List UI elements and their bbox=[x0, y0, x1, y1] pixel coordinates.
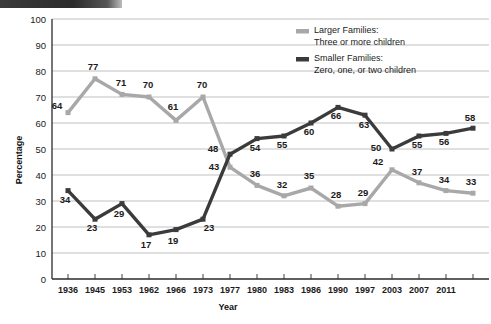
smaller-families-marker[interactable] bbox=[120, 201, 125, 206]
legend-label-larger-line2: Three or more children bbox=[314, 37, 405, 47]
y-tick-label: 30 bbox=[35, 196, 46, 207]
line-chart: 0102030405060708090100193619451953196219… bbox=[0, 0, 491, 324]
smaller-families-value-label: 19 bbox=[168, 235, 179, 246]
larger-families-marker[interactable] bbox=[174, 118, 179, 123]
smaller-families-marker[interactable] bbox=[66, 188, 71, 193]
x-tick-label: 2011 bbox=[436, 285, 456, 295]
y-tick-label: 90 bbox=[35, 40, 46, 51]
legend-swatch-smaller bbox=[296, 57, 309, 62]
smaller-families-marker[interactable] bbox=[444, 131, 449, 136]
smaller-families-marker[interactable] bbox=[228, 152, 233, 157]
smaller-families-value-label: 17 bbox=[141, 239, 152, 250]
smaller-families-marker[interactable] bbox=[390, 147, 395, 152]
smaller-families-value-label: 29 bbox=[114, 208, 125, 219]
y-tick-label: 20 bbox=[35, 222, 46, 233]
x-tick-label: 1980 bbox=[247, 285, 267, 295]
x-tick-label: 2003 bbox=[382, 285, 402, 295]
larger-families-value-label: 36 bbox=[250, 168, 261, 179]
y-tick-label: 80 bbox=[35, 66, 46, 77]
y-tick-label: 60 bbox=[35, 118, 46, 129]
larger-families-marker[interactable] bbox=[417, 180, 422, 185]
larger-families-value-label: 43 bbox=[209, 161, 220, 172]
smaller-families-value-label: 50 bbox=[371, 142, 382, 153]
larger-families-marker[interactable] bbox=[147, 95, 152, 100]
x-tick-label: 2007 bbox=[409, 285, 429, 295]
smaller-families-marker[interactable] bbox=[471, 126, 476, 131]
larger-families-value-label: 64 bbox=[52, 100, 63, 111]
smaller-families-marker[interactable] bbox=[201, 217, 206, 222]
y-tick-label: 50 bbox=[35, 144, 46, 155]
legend-label-smaller-line2: Zero, one, or two children bbox=[314, 65, 416, 75]
x-tick-label: 1962 bbox=[139, 285, 159, 295]
smaller-families-value-label: 55 bbox=[277, 139, 288, 150]
larger-families-marker[interactable] bbox=[93, 76, 98, 81]
larger-families-value-label: 35 bbox=[304, 170, 315, 181]
larger-families-value-label: 70 bbox=[197, 79, 208, 90]
smaller-families-value-label: 63 bbox=[359, 119, 370, 130]
legend-swatch-larger bbox=[296, 29, 309, 34]
y-tick-label: 70 bbox=[35, 92, 46, 103]
x-tick-label: 1945 bbox=[85, 285, 105, 295]
smaller-families-value-label: 23 bbox=[87, 222, 98, 233]
smaller-families-marker[interactable] bbox=[309, 121, 314, 126]
larger-families-marker[interactable] bbox=[120, 92, 125, 97]
y-tick-label: 10 bbox=[35, 248, 46, 259]
larger-families-marker[interactable] bbox=[471, 191, 476, 196]
larger-families-value-label: 33 bbox=[466, 176, 477, 187]
smaller-families-value-label: 48 bbox=[208, 143, 219, 154]
x-axis-title: Year bbox=[218, 302, 238, 312]
x-tick-label: 1966 bbox=[166, 285, 186, 295]
x-tick-label: 1977 bbox=[220, 285, 240, 295]
larger-families-marker[interactable] bbox=[363, 201, 368, 206]
smaller-families-marker[interactable] bbox=[174, 227, 179, 232]
smaller-families-value-label: 54 bbox=[250, 142, 261, 153]
x-tick-label: 1936 bbox=[58, 285, 78, 295]
x-tick-label: 1986 bbox=[301, 285, 321, 295]
smaller-families-marker[interactable] bbox=[363, 113, 368, 118]
y-tick-label: 40 bbox=[35, 170, 46, 181]
larger-families-value-label: 32 bbox=[277, 179, 288, 190]
x-tick-label: 1953 bbox=[112, 285, 132, 295]
x-tick-label: 1997 bbox=[355, 285, 375, 295]
larger-families-marker[interactable] bbox=[255, 183, 260, 188]
y-tick-label: 0 bbox=[41, 274, 46, 285]
larger-families-value-label: 61 bbox=[168, 101, 179, 112]
larger-families-value-label: 70 bbox=[143, 79, 154, 90]
larger-families-marker[interactable] bbox=[444, 188, 449, 193]
y-axis-title: Percentage bbox=[14, 136, 24, 185]
larger-families-value-label: 37 bbox=[412, 166, 423, 177]
smaller-families-marker[interactable] bbox=[336, 105, 341, 110]
legend-label-larger-line1: Larger Families: bbox=[314, 25, 379, 35]
larger-families-value-label: 77 bbox=[88, 61, 99, 72]
y-tick-label: 100 bbox=[30, 14, 46, 25]
larger-families-marker[interactable] bbox=[309, 186, 314, 191]
smaller-families-value-label: 56 bbox=[439, 136, 450, 147]
smaller-families-value-label: 60 bbox=[304, 126, 315, 137]
smaller-families-marker[interactable] bbox=[147, 232, 152, 237]
smaller-families-value-label: 66 bbox=[331, 110, 342, 121]
larger-families-value-label: 71 bbox=[116, 77, 127, 88]
chart-container: 0102030405060708090100193619451953196219… bbox=[0, 0, 491, 324]
smaller-families-marker[interactable] bbox=[282, 134, 287, 139]
larger-families-marker[interactable] bbox=[390, 167, 395, 172]
larger-families-value-label: 42 bbox=[373, 156, 384, 167]
x-tick-label: 1983 bbox=[274, 285, 294, 295]
x-tick-label: 1990 bbox=[328, 285, 348, 295]
larger-families-marker[interactable] bbox=[66, 110, 71, 115]
smaller-families-marker[interactable] bbox=[255, 136, 260, 141]
larger-families-marker[interactable] bbox=[201, 95, 206, 100]
smaller-families-value-label: 23 bbox=[204, 222, 215, 233]
smaller-families-value-label: 34 bbox=[60, 194, 71, 205]
larger-families-value-label: 29 bbox=[358, 187, 369, 198]
smaller-families-value-label: 58 bbox=[465, 112, 476, 123]
larger-families-value-label: 28 bbox=[331, 189, 342, 200]
smaller-families-marker[interactable] bbox=[93, 217, 98, 222]
legend-label-smaller-line1: Smaller Families: bbox=[314, 53, 383, 63]
larger-families-marker[interactable] bbox=[228, 165, 233, 170]
smaller-families-value-label: 55 bbox=[412, 139, 423, 150]
larger-families-marker[interactable] bbox=[336, 204, 341, 209]
x-tick-label: 1973 bbox=[193, 285, 213, 295]
smaller-families-marker[interactable] bbox=[417, 134, 422, 139]
larger-families-marker[interactable] bbox=[282, 193, 287, 198]
larger-families-value-label: 34 bbox=[439, 174, 450, 185]
